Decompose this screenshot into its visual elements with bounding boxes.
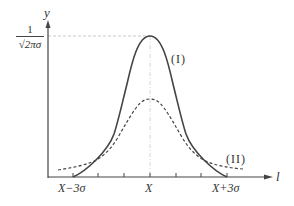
y-peak-denominator: √2πσ (16, 38, 44, 50)
x-axis-label: l (276, 170, 280, 183)
y-axis-label: y (44, 6, 50, 19)
x-tick-label-mean: X (145, 182, 152, 194)
y-axis-arrow-icon (46, 20, 51, 28)
x-tick-label-minus-3sigma: X−3σ (58, 182, 85, 194)
curve-II-label: (II) (226, 153, 246, 165)
fraction-bar (16, 36, 44, 37)
x-axis-arrow-icon (264, 175, 273, 180)
y-peak-numerator: 1 (16, 24, 44, 35)
curve-I-label: (I) (171, 53, 186, 65)
curve-II-dashed (58, 99, 243, 170)
x-tick-label-plus-3sigma: X+3σ (212, 182, 239, 194)
normal-distribution-diagram (0, 0, 294, 206)
y-peak-label: 1 √2πσ (16, 24, 44, 50)
